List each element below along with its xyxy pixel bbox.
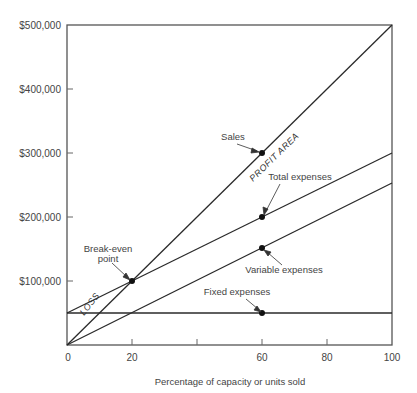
- sales-label: Sales: [221, 131, 245, 142]
- y-tick-label: $400,000: [19, 84, 61, 95]
- y-tick-label: $100,000: [19, 276, 61, 287]
- x-tick-label: 100: [384, 352, 401, 363]
- break-even-point: [129, 278, 135, 284]
- x-tick-label: 20: [126, 352, 138, 363]
- x-tick-label: 80: [321, 352, 333, 363]
- y-tick-label: $300,000: [19, 148, 61, 159]
- variable-expenses-label: Variable expenses: [245, 264, 323, 275]
- variable-expenses-line: [67, 183, 392, 345]
- sales-point: [259, 150, 265, 156]
- x-tick-label: 0: [65, 352, 71, 363]
- x-tick-label: 60: [256, 352, 268, 363]
- y-tick-label: $200,000: [19, 212, 61, 223]
- break-even-label-line2: point: [98, 253, 119, 264]
- x-axis-ticks: [132, 339, 327, 345]
- y-axis-ticks: [67, 89, 73, 281]
- x-axis-title: Percentage of capacity or units sold: [155, 376, 306, 387]
- sales-line: [67, 25, 392, 345]
- break-even-chart: $500,000 $400,000 $300,000 $200,000 $100…: [0, 0, 417, 393]
- y-tick-label: $500,000: [19, 20, 61, 31]
- fixed-expenses-label: Fixed expenses: [204, 286, 271, 297]
- total-expenses-label: Total expenses: [268, 171, 332, 182]
